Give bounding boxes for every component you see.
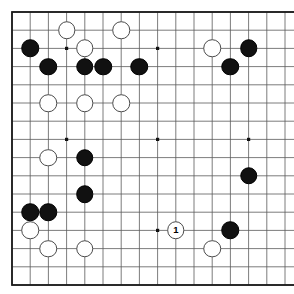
star-point: [65, 47, 68, 50]
white-stone[interactable]: [40, 94, 58, 112]
go-board-diagram: 1: [0, 0, 294, 294]
black-stone[interactable]: [76, 58, 94, 76]
white-stone[interactable]: [21, 222, 39, 240]
white-stone[interactable]: [76, 240, 94, 258]
star-point: [156, 138, 159, 141]
white-stone[interactable]: [112, 21, 130, 39]
black-stone[interactable]: [76, 185, 94, 203]
white-stone[interactable]: [40, 240, 58, 258]
white-stone[interactable]: [76, 40, 94, 58]
white-stone[interactable]: [76, 94, 94, 112]
black-stone[interactable]: [76, 149, 94, 167]
black-stone[interactable]: [240, 167, 258, 185]
white-stone[interactable]: [203, 40, 221, 58]
move-marker-stone[interactable]: 1: [167, 222, 185, 240]
white-stone[interactable]: [40, 149, 58, 167]
black-stone[interactable]: [131, 58, 149, 76]
star-point: [156, 229, 159, 232]
black-stone[interactable]: [21, 40, 39, 58]
black-stone[interactable]: [94, 58, 112, 76]
white-stone[interactable]: [58, 21, 76, 39]
star-point: [247, 138, 250, 141]
black-stone[interactable]: [21, 203, 39, 221]
black-stone[interactable]: [222, 58, 240, 76]
white-stone[interactable]: [112, 94, 130, 112]
black-stone[interactable]: [40, 58, 58, 76]
star-point: [65, 138, 68, 141]
black-stone[interactable]: [40, 203, 58, 221]
star-point: [156, 47, 159, 50]
black-stone[interactable]: [222, 222, 240, 240]
black-stone[interactable]: [240, 40, 258, 58]
move-number-label: 1: [168, 223, 184, 239]
white-stone[interactable]: [203, 240, 221, 258]
